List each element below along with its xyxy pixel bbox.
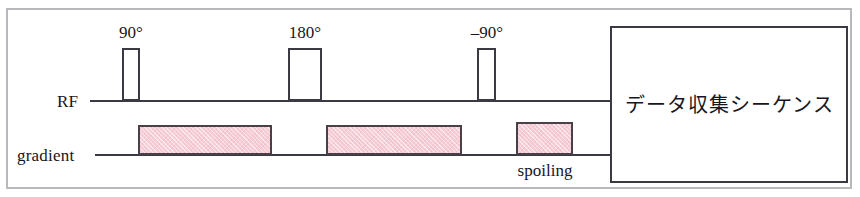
spoiling-label: spoiling	[495, 162, 595, 179]
rf-pulse-caption-90: 90°	[101, 24, 161, 41]
rf-pulse-180	[288, 48, 322, 101]
rf-pulse-caption-minus-90: –90°	[457, 24, 517, 41]
gradient-block-1	[138, 125, 272, 155]
pulse-sequence-figure: RF gradient 90° 180° –90° spoiling データ収集…	[0, 0, 860, 197]
acquisition-sequence-box: データ収集シーケンス	[610, 26, 848, 183]
gradient-block-2	[326, 125, 462, 155]
gradient-block-spoiling	[516, 122, 573, 155]
rf-axis-label: RF	[57, 93, 78, 110]
rf-pulse-caption-180: 180°	[275, 24, 335, 41]
rf-baseline	[90, 100, 611, 102]
rf-pulse-minus-90	[477, 48, 496, 101]
gradient-axis-label: gradient	[17, 147, 74, 164]
rf-pulse-90	[122, 48, 140, 101]
acquisition-sequence-label: データ収集シーケンス	[625, 95, 834, 115]
